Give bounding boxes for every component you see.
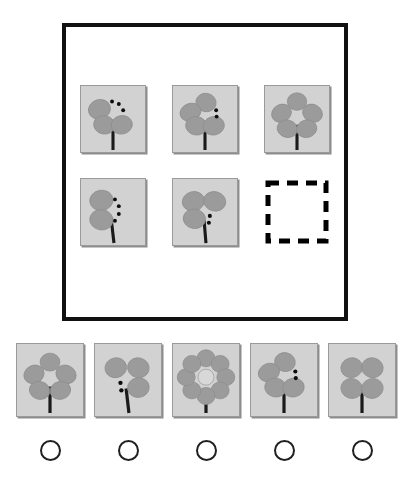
flower-option-4-petals-2-dots [251,344,317,416]
flower-option-5-petals [17,344,83,416]
radio-button-option-1[interactable] [40,440,61,461]
flower-option-8-petals [173,344,239,416]
flower-2-petals-4-dots [81,179,145,245]
flower-option-4-petals [329,344,395,416]
matrix-frame [62,23,348,321]
radio-cell-1[interactable] [16,432,84,468]
radio-button-option-3[interactable] [196,440,217,461]
flower-4-petals-2-dots [173,86,237,152]
puzzle-stage [0,0,410,496]
flower-option-3-petals-2-dots-left [95,344,161,416]
flower-5-petals-0-dots [265,86,329,152]
answer-option-5[interactable] [328,343,396,417]
answer-option-3[interactable] [172,343,240,417]
flower-3-petals-3-dots [81,86,145,152]
matrix-cell-2[interactable] [172,85,238,153]
radio-button-option-2[interactable] [118,440,139,461]
matrix-cell-5[interactable] [172,178,238,246]
matrix-cell-3[interactable] [264,85,330,153]
radio-cell-3[interactable] [172,432,240,468]
radio-cell-5[interactable] [328,432,396,468]
radio-cell-4[interactable] [250,432,318,468]
radio-button-option-4[interactable] [274,440,295,461]
matrix-grid [80,85,338,263]
dashed-placeholder-icon [264,178,330,246]
radio-cell-2[interactable] [94,432,162,468]
answer-option-4[interactable] [250,343,318,417]
matrix-cell-4[interactable] [80,178,146,246]
answer-option-1[interactable] [16,343,84,417]
flower-3-petals-2-dots-lower [173,179,237,245]
matrix-cell-6-missing[interactable] [264,178,330,246]
answer-radio-row [16,432,396,472]
radio-button-option-5[interactable] [352,440,373,461]
answer-options-row [16,343,396,419]
matrix-cell-1[interactable] [80,85,146,153]
answer-option-2[interactable] [94,343,162,417]
